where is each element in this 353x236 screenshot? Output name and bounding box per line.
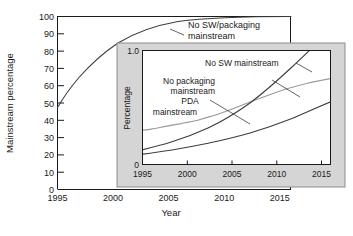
- main-ytick-50: 50: [44, 99, 54, 109]
- inset-xtick-2005: 2005: [223, 169, 242, 179]
- inset-annotation-no-sw: No SW mainstream: [205, 58, 279, 68]
- main-ytick-70: 70: [44, 64, 54, 74]
- inset-annotation-pda-line1: PDA: [181, 96, 199, 106]
- main-annotation-line1: No SW/packaging: [188, 20, 260, 30]
- main-annotation-leader: [170, 29, 184, 35]
- main-xaxis-label: Year: [161, 207, 180, 218]
- main-ytick-80: 80: [44, 47, 54, 57]
- inset-annotation-no-packaging-line1: No packaging: [163, 76, 215, 86]
- main-xtick-2000: 2000: [103, 193, 123, 203]
- main-y-ticks: [58, 17, 65, 173]
- inset-xtick-2015: 2015: [312, 169, 331, 179]
- main-yaxis-label: Mainstream percentage: [4, 53, 15, 153]
- inset-ytick-top: 1.0: [127, 46, 139, 56]
- inset-yaxis-label: Percentage: [122, 86, 132, 130]
- main-ytick-40: 40: [44, 116, 54, 126]
- main-ytick-30: 30: [44, 133, 54, 143]
- inset-chart: 1.0 0 Percentage 1995 2000 2005 2010 201…: [117, 30, 345, 187]
- inset-xtick-1995: 1995: [133, 169, 152, 179]
- main-ytick-60: 60: [44, 81, 54, 91]
- main-xtick-2015: 2015: [270, 193, 290, 203]
- main-ytick-90: 90: [44, 29, 54, 39]
- inset-annotation-no-packaging-line2: mainstream: [171, 86, 215, 96]
- main-ytick-10: 10: [44, 168, 54, 178]
- inset-xtick-2010: 2010: [267, 169, 286, 179]
- main-ytick-20: 20: [44, 150, 54, 160]
- main-annotation-line2: mainstream: [188, 31, 235, 41]
- main-xtick-1995: 1995: [47, 193, 67, 203]
- inset-xtick-2000: 2000: [178, 169, 197, 179]
- main-xtick-2010: 2010: [214, 193, 234, 203]
- figure-container: 100 90 80 70 60 50 40 30 20 10 0 1995 20…: [0, 0, 353, 236]
- inset-annotation-pda-line2: mainstream: [153, 107, 197, 117]
- chart-svg: 100 90 80 70 60 50 40 30 20 10 0 1995 20…: [0, 0, 353, 236]
- main-xtick-2005: 2005: [159, 193, 179, 203]
- main-ytick-100: 100: [39, 12, 54, 22]
